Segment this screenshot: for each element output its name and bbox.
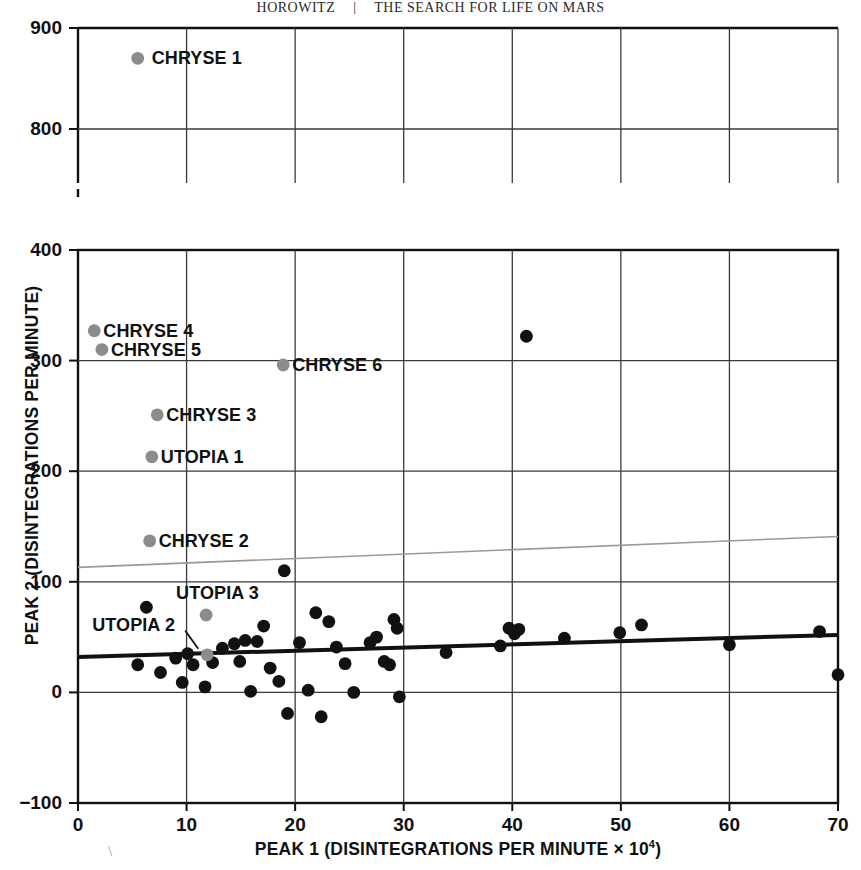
data-point-sample bbox=[228, 637, 241, 650]
scan-artifact-mark: \ bbox=[108, 843, 112, 860]
y-axis-tick-label: −100 bbox=[0, 792, 62, 814]
data-point-sample bbox=[199, 680, 212, 693]
data-point-sample bbox=[131, 658, 144, 671]
data-point-sample bbox=[244, 685, 257, 698]
data-point-chryse-6 bbox=[277, 359, 290, 372]
data-point-sample bbox=[281, 707, 294, 720]
x-axis-tick-label: 70 bbox=[827, 814, 848, 836]
data-point-sample bbox=[383, 658, 396, 671]
x-axis-tick-label: 50 bbox=[610, 814, 631, 836]
point-label-chryse-2: CHRYSE 2 bbox=[159, 530, 249, 551]
data-point-sample bbox=[264, 662, 277, 675]
data-point-sample bbox=[339, 657, 352, 670]
point-label-chryse-3: CHRYSE 3 bbox=[166, 404, 256, 425]
data-point-sample bbox=[322, 615, 335, 628]
point-label-utopia-3: UTOPIA 3 bbox=[176, 582, 259, 603]
data-point-chryse-3 bbox=[151, 408, 164, 421]
data-point-sample bbox=[494, 640, 507, 653]
data-point-sample bbox=[512, 623, 525, 636]
data-point-sample bbox=[257, 620, 270, 633]
x-axis-title: PEAK 1 (DISINTEGRATIONS PER MINUTE × 104… bbox=[78, 838, 838, 860]
data-point-utopia-3 bbox=[200, 609, 213, 622]
x-axis-tick-label: 30 bbox=[393, 814, 414, 836]
data-point-sample bbox=[251, 635, 264, 648]
x-axis-tick-label: 40 bbox=[502, 814, 523, 836]
data-point-sample bbox=[272, 675, 285, 688]
data-point-sample bbox=[309, 606, 322, 619]
y-axis-tick-label: 0 bbox=[0, 681, 62, 703]
data-point-sample bbox=[293, 636, 306, 649]
x-axis-tick-label: 0 bbox=[73, 814, 84, 836]
data-point-sample bbox=[233, 655, 246, 668]
point-label-utopia-1: UTOPIA 1 bbox=[161, 446, 244, 467]
data-point-sample bbox=[169, 652, 182, 665]
y-axis-tick-label: 900 bbox=[0, 17, 62, 39]
x-axis-title-main: PEAK 1 (DISINTEGRATIONS PER MINUTE × 10 bbox=[255, 839, 649, 859]
plot-canvas bbox=[0, 0, 861, 870]
data-point-chryse-2 bbox=[143, 534, 156, 547]
data-point-chryse-4 bbox=[88, 324, 101, 337]
data-point-sample bbox=[181, 647, 194, 660]
data-point-sample bbox=[315, 710, 328, 723]
data-point-sample bbox=[391, 622, 404, 635]
data-point-chryse-5 bbox=[95, 343, 108, 356]
data-point-sample bbox=[239, 634, 252, 647]
data-point-sample bbox=[140, 601, 153, 614]
data-point-sample bbox=[635, 619, 648, 632]
x-axis-tick-label: 10 bbox=[176, 814, 197, 836]
data-point-sample bbox=[723, 638, 736, 651]
y-axis-title: PEAK 2 (DISINTEGRATIONS PER MINUTE) bbox=[22, 256, 43, 676]
data-point-sample bbox=[393, 690, 406, 703]
data-point-sample bbox=[520, 330, 533, 343]
x-axis-tick-label: 60 bbox=[719, 814, 740, 836]
x-axis-title-close: ) bbox=[655, 839, 661, 859]
data-point-sample bbox=[154, 666, 167, 679]
data-point-utopia-1 bbox=[145, 450, 158, 463]
data-point-sample bbox=[187, 658, 200, 671]
data-point-sample bbox=[302, 684, 315, 697]
data-point-sample bbox=[813, 625, 826, 638]
data-point-sample bbox=[440, 646, 453, 659]
y-axis-tick-label: 800 bbox=[0, 118, 62, 140]
data-point-sample bbox=[216, 642, 229, 655]
data-point-sample bbox=[176, 676, 189, 689]
data-point-sample bbox=[347, 686, 360, 699]
point-label-chryse-6: CHRYSE 6 bbox=[292, 355, 382, 376]
data-point-sample bbox=[330, 641, 343, 654]
data-point-sample bbox=[832, 668, 845, 681]
data-point-sample bbox=[613, 626, 626, 639]
data-point-sample bbox=[278, 564, 291, 577]
data-point-chryse-1 bbox=[131, 52, 144, 65]
point-label-utopia-2: UTOPIA 2 bbox=[92, 614, 175, 635]
figure-scatter-plot: HOROWITZ | THE SEARCH FOR LIFE ON MARS 8… bbox=[0, 0, 861, 870]
data-point-sample bbox=[370, 631, 383, 644]
x-axis-tick-label: 20 bbox=[285, 814, 306, 836]
point-label-chryse-5: CHRYSE 5 bbox=[111, 339, 201, 360]
point-label-chryse-1: CHRYSE 1 bbox=[152, 48, 242, 69]
data-point-sample bbox=[558, 632, 571, 645]
data-point-utopia-2 bbox=[201, 648, 214, 661]
